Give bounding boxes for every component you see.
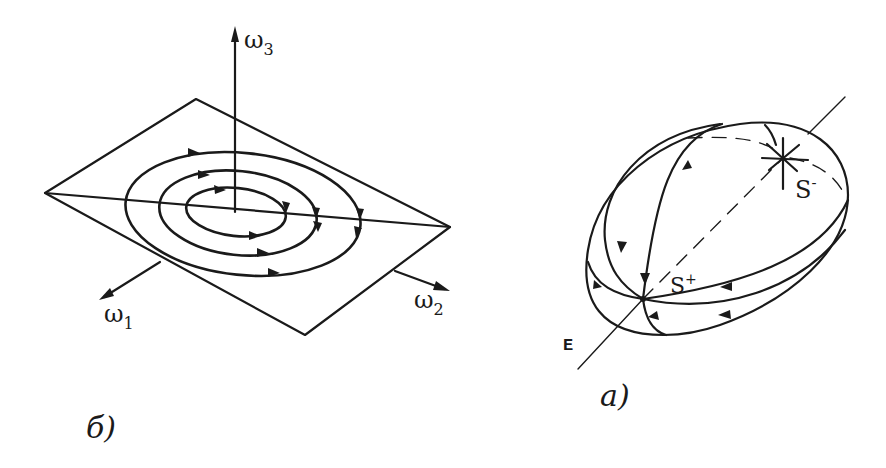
arrow-icon [648, 311, 659, 320]
arrow-icon [640, 273, 650, 285]
arrow-icon [682, 160, 692, 170]
arrow-icon [249, 231, 261, 240]
plane-diagonal [45, 193, 450, 227]
omega2-label: ω2 [414, 286, 444, 319]
trajectories [588, 124, 848, 335]
omega3-label: ω3 [244, 26, 274, 59]
e-label: E [563, 336, 573, 355]
s-minus-label: S- [795, 174, 817, 204]
panel-a-caption: a) [600, 378, 630, 413]
back-meridian [688, 137, 780, 153]
panel-b: ω3 ω1 ω2 б) [45, 26, 450, 445]
arrow-icon [718, 310, 731, 319]
omega1-label: ω1 [104, 300, 134, 333]
arrow-icon [312, 207, 320, 219]
e-axis-upper [808, 97, 845, 134]
panel-b-caption: б) [86, 410, 116, 445]
s-plus-node [640, 296, 646, 302]
arrow-icon [617, 241, 627, 253]
e-axis-lower [578, 299, 643, 369]
omega1-axis [99, 262, 160, 300]
figure: ω3 ω1 ω2 б) [0, 0, 886, 468]
panel-a: S- S+ E a) [563, 97, 848, 413]
s-plus-label: S+ [670, 271, 697, 298]
e-axis-hidden [643, 158, 783, 299]
ellipsoid-outline [586, 123, 848, 335]
